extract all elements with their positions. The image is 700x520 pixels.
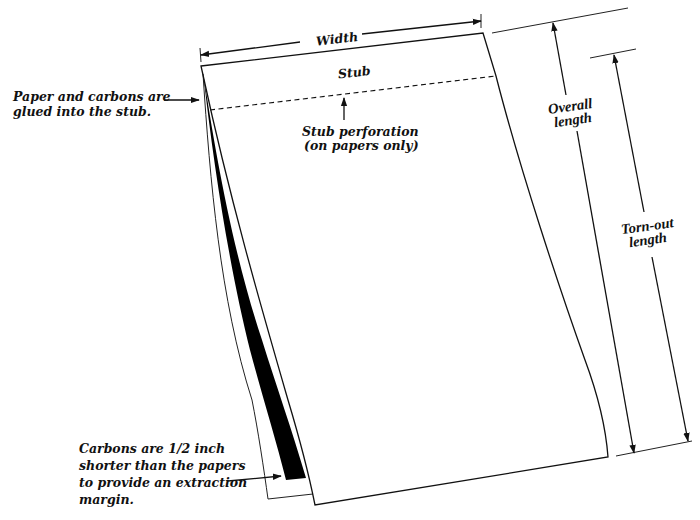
stub-label: Stub <box>337 63 371 82</box>
stub-perforation-label-line2: (on papers only) <box>304 138 419 153</box>
glued-label-line2: glued into the stub. <box>13 104 151 119</box>
overall-arrow-down <box>577 131 634 453</box>
back-paper-outline <box>203 74 313 499</box>
tornout-arrow-up <box>614 55 644 212</box>
tornout-arrow-down <box>652 257 688 441</box>
stub-perforation-line <box>210 76 496 110</box>
width-tick-left <box>200 48 201 62</box>
carbons-note-line3: to provide an extraction <box>79 475 247 490</box>
carbons-note-line4: margin. <box>79 492 134 507</box>
width-label: Width <box>315 29 359 49</box>
carbon-sheet <box>203 72 306 480</box>
overall-ext-top <box>492 8 628 33</box>
form-set-diagram: Width Stub Stub perforation (on papers o… <box>0 0 700 520</box>
tornout-ext-top <box>590 49 636 58</box>
overall-ext-bottom <box>616 441 692 456</box>
carbons-note-line1: Carbons are 1/2 inch <box>79 441 225 456</box>
carbons-note-line2: shorter than the papers <box>79 458 245 473</box>
width-arrow-left <box>201 42 300 55</box>
glued-label-line1: Paper and carbons are <box>12 89 171 104</box>
width-arrow-right <box>362 21 481 34</box>
overall-arrow-up <box>553 23 566 95</box>
stub-perforation-label-line1: Stub perforation <box>302 124 419 139</box>
